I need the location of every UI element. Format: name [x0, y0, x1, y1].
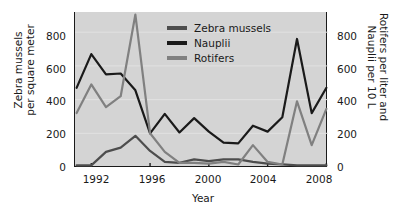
y-axis-right-title-line1: Rotifers per liter and — [378, 12, 390, 122]
x-tick-2008: 2008 — [297, 173, 341, 185]
legend-label-zebra-mussels: Zebra mussels — [194, 22, 271, 34]
y-right-tick-200: 200 — [337, 128, 369, 140]
y-right-tick-400: 400 — [337, 95, 369, 107]
y-axis-left-title-line2: per square meter — [24, 15, 36, 125]
y-right-tick-0: 0 — [337, 161, 369, 173]
y-left-tick-600: 600 — [34, 63, 66, 75]
y-axis-left-title-line1: Zebra mussels — [12, 15, 24, 125]
x-axis-title: Year — [0, 192, 406, 204]
y-right-tick-600: 600 — [337, 63, 369, 75]
legend-item-nauplii: Nauplii — [167, 37, 271, 49]
y-right-tick-800: 800 — [337, 30, 369, 42]
y-left-tick-800: 800 — [34, 30, 66, 42]
y-axis-right-title-line2: Nauplii per 10 L — [366, 12, 378, 122]
x-tick-2004: 2004 — [241, 173, 285, 185]
y-axis-left-title: Zebra mussels per square meter — [12, 15, 36, 125]
chart-legend: Zebra mussels Nauplii Rotifers — [167, 22, 271, 64]
x-tick-2000: 2000 — [186, 173, 230, 185]
x-tick-1996: 1996 — [130, 173, 174, 185]
legend-label-nauplii: Nauplii — [194, 37, 230, 49]
legend-swatch-rotifers — [167, 56, 187, 59]
legend-label-rotifers: Rotifers — [194, 52, 234, 64]
y-left-tick-200: 200 — [34, 128, 66, 140]
legend-swatch-zebra-mussels — [167, 26, 187, 29]
x-tick-1992: 1992 — [74, 173, 118, 185]
chart-figure: 800 600 400 200 0 800 600 400 200 0 1992… — [0, 0, 406, 212]
legend-item-rotifers: Rotifers — [167, 52, 271, 64]
legend-item-zebra-mussels: Zebra mussels — [167, 22, 271, 34]
y-left-tick-400: 400 — [34, 95, 66, 107]
y-axis-right-title: Rotifers per liter and Nauplii per 10 L — [366, 12, 390, 122]
y-left-tick-0: 0 — [34, 161, 66, 173]
legend-swatch-nauplii — [167, 41, 187, 44]
